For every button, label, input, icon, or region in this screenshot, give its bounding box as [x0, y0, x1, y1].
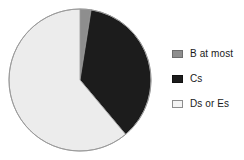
chart-legend: B at most Cs Ds or Es: [172, 47, 244, 110]
legend-swatch-cs: [172, 75, 183, 83]
legend-item-cs[interactable]: Cs: [172, 72, 244, 85]
pie-slice-group: [9, 9, 151, 151]
legend-swatch-b-at-most: [172, 50, 183, 58]
legend-label-cs: Cs: [190, 73, 202, 84]
legend-item-b-at-most[interactable]: B at most: [172, 47, 244, 60]
legend-label-ds-or-es: Ds or Es: [190, 98, 229, 109]
pie-chart-canvas: [0, 0, 160, 160]
legend-item-ds-or-es[interactable]: Ds or Es: [172, 97, 244, 110]
legend-swatch-ds-or-es: [172, 100, 183, 108]
pie-chart-figure: B at most Cs Ds or Es: [0, 0, 244, 160]
legend-label-b-at-most: B at most: [190, 48, 233, 59]
